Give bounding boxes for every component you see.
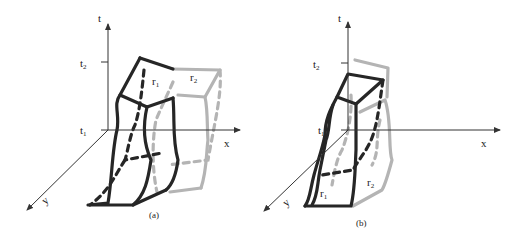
r1-label-a: r1	[152, 75, 160, 89]
y-axis-label-a: y	[39, 193, 51, 206]
r2-label-a: r2	[190, 71, 198, 85]
region-r1-a	[88, 58, 178, 205]
t-axis-label-a: t	[98, 12, 101, 24]
diagram-canvas: t x y t2 t1 r1 r2 (a) t x	[0, 0, 523, 242]
r1-label-b: r1	[320, 187, 328, 201]
y-axis-label-b: y	[280, 195, 292, 208]
t1-label-b: t1	[318, 124, 325, 138]
x-axis-label-b: x	[481, 137, 487, 149]
caption-b: (b)	[356, 218, 367, 228]
t1-label-a: t1	[80, 124, 87, 138]
caption-a: (a)	[149, 210, 159, 220]
x-axis-label-a: x	[224, 137, 230, 149]
t-axis-label-b: t	[338, 12, 341, 24]
r2-label-b: r2	[367, 176, 375, 190]
t2-label-a: t2	[80, 57, 87, 71]
t2-label-b: t2	[313, 58, 320, 72]
panel-a: t x y t2 t1 r1 r2 (a)	[27, 12, 240, 220]
panel-b: t x y t2 t1 r1 r2 (b)	[264, 12, 500, 228]
